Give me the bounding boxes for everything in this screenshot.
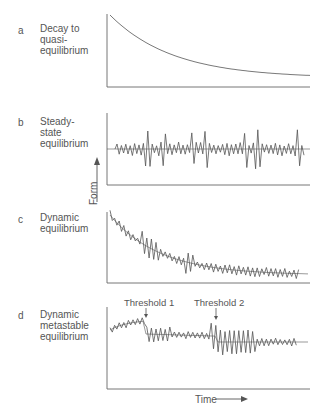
threshold-arrows: [144, 308, 218, 320]
diagram-plots: [0, 0, 322, 409]
x-axis-arrow: [216, 396, 248, 402]
panel-a-decay-curve: [110, 15, 310, 75]
panel-d-fluctuation: [110, 318, 296, 355]
y-axis-arrow: [94, 157, 100, 202]
panel-a-axes: [107, 14, 310, 87]
panel-c-fluctuation: [110, 210, 299, 278]
